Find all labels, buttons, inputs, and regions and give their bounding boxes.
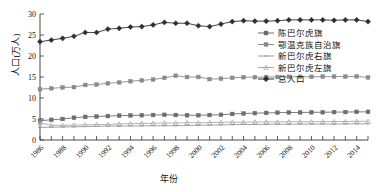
data-point <box>253 75 257 79</box>
data-point <box>184 21 189 26</box>
data-point <box>309 17 314 22</box>
data-point <box>298 111 302 115</box>
line-chart-plot: 0510152025301986198819901992199419961998… <box>0 0 379 192</box>
legend-item[interactable]: 新巴尔虎左旗 <box>258 63 332 73</box>
y-tick-label: 10 <box>28 94 36 103</box>
data-point <box>219 113 223 117</box>
data-point <box>321 110 325 114</box>
x-tick-label: 1988 <box>51 143 68 160</box>
data-point <box>287 111 291 115</box>
data-point <box>61 86 65 90</box>
data-point <box>83 115 87 119</box>
x-tick-label: 2012 <box>323 143 340 160</box>
data-point <box>139 24 144 29</box>
data-point <box>83 83 87 87</box>
data-point <box>49 118 53 122</box>
x-tick-label: 1986 <box>28 143 45 160</box>
data-point <box>242 112 246 116</box>
data-point <box>343 17 348 22</box>
series-2 <box>38 74 370 91</box>
data-point <box>151 78 155 82</box>
legend-marker <box>264 43 268 47</box>
y-tick-label: 25 <box>28 31 36 40</box>
legend-marker <box>264 31 268 35</box>
data-point <box>321 75 325 79</box>
data-point <box>218 21 223 26</box>
data-point <box>105 27 110 32</box>
x-tick-label: 1994 <box>119 143 136 160</box>
data-point <box>332 75 336 79</box>
data-point <box>106 81 110 85</box>
x-tick-label: 1990 <box>74 143 91 160</box>
y-tick-label: 30 <box>28 10 36 19</box>
x-tick-label: 1992 <box>96 143 113 160</box>
data-point <box>230 19 235 24</box>
x-tick-label: 1998 <box>164 143 181 160</box>
legend-label: 鄂温克族自治旗 <box>278 40 341 50</box>
data-point <box>163 113 167 117</box>
data-point <box>94 30 99 35</box>
data-point <box>185 75 189 79</box>
legend-label: 总人口 <box>278 74 305 84</box>
data-point <box>151 22 156 27</box>
legend-item[interactable]: 陈巴尔虎旗 <box>258 28 323 38</box>
data-point <box>38 87 42 91</box>
data-point <box>208 77 212 81</box>
data-point <box>60 36 65 41</box>
data-point <box>320 17 325 22</box>
data-point <box>72 116 76 120</box>
data-point <box>366 110 370 114</box>
data-point <box>332 110 336 114</box>
data-point <box>140 113 144 117</box>
data-point <box>71 34 76 39</box>
data-point <box>95 83 99 87</box>
y-tick-label: 0 <box>32 136 36 145</box>
data-point <box>117 114 121 118</box>
data-point <box>49 86 53 90</box>
legend-item[interactable]: 新巴尔虎右旗 <box>258 51 332 61</box>
y-tick-label: 20 <box>28 52 36 61</box>
data-point <box>129 79 133 83</box>
x-tick-label: 2002 <box>209 143 226 160</box>
data-point <box>264 111 268 115</box>
x-tick-label: 2004 <box>232 143 249 160</box>
x-tick-label: 2008 <box>277 143 294 160</box>
data-point <box>72 85 76 89</box>
series-1 <box>38 110 370 123</box>
data-point <box>128 24 133 29</box>
x-tick-label: 2006 <box>255 143 272 160</box>
data-point <box>331 18 336 23</box>
data-point <box>355 110 359 114</box>
data-point <box>61 117 65 121</box>
y-tick-label: 5 <box>32 115 36 124</box>
data-point <box>151 113 155 117</box>
data-point <box>286 17 291 22</box>
data-point <box>117 26 122 31</box>
series-4 <box>38 119 370 127</box>
x-tick-label: 2000 <box>187 143 204 160</box>
data-point <box>230 112 234 116</box>
data-point <box>196 75 200 79</box>
data-point <box>117 81 121 85</box>
x-tick-label: 2010 <box>300 143 317 160</box>
data-point <box>129 114 133 118</box>
y-tick-label: 15 <box>28 73 36 82</box>
data-point <box>174 113 178 117</box>
legend-layer: 陈巴尔虎旗鄂温克族自治旗新巴尔虎右旗新巴尔虎左旗总人口 <box>258 28 341 84</box>
data-point <box>196 113 200 117</box>
x-tick-label: 2014 <box>345 143 362 160</box>
data-point <box>219 77 223 81</box>
data-point <box>264 19 269 24</box>
data-point <box>310 75 314 79</box>
data-point <box>208 113 212 117</box>
data-point <box>173 21 178 26</box>
data-point <box>253 111 257 115</box>
data-point <box>37 39 42 44</box>
data-point <box>366 76 370 80</box>
data-point <box>95 115 99 119</box>
data-point <box>275 18 280 23</box>
data-point <box>230 76 234 80</box>
data-point <box>174 74 178 78</box>
legend-item[interactable]: 鄂温克族自治旗 <box>258 40 341 50</box>
data-point <box>354 17 359 22</box>
